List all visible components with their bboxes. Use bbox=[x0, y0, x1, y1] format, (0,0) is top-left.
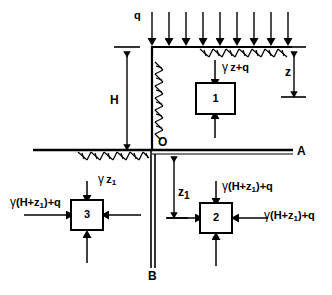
point-B-label: B bbox=[148, 270, 157, 282]
element2-top-stress-label: γ(H+z1)+q bbox=[222, 180, 273, 192]
surcharge-label: q bbox=[134, 10, 141, 21]
element-2-label: 2 bbox=[200, 212, 232, 223]
wall-height-H-label: H bbox=[110, 94, 119, 106]
depth-z1-label: z1 bbox=[178, 186, 190, 201]
element3-top-stress-label: γ z1 bbox=[98, 173, 116, 185]
vertical-stress-element1-label: γ z+q bbox=[222, 61, 249, 73]
element3-left-stress-label: γ(H+z1)+q bbox=[10, 196, 61, 208]
point-O-label: O bbox=[158, 136, 167, 148]
top-surface-hatching bbox=[200, 49, 287, 57]
lower-ground-surface bbox=[33, 150, 293, 154]
lower-surface-hatching bbox=[78, 152, 149, 160]
surcharge-arrow-group bbox=[152, 12, 288, 39]
element2-right-stress-label: γ(H+z1)+q bbox=[264, 209, 315, 221]
lower-wall-line-OB bbox=[151, 150, 155, 268]
point-A-label: A bbox=[297, 145, 306, 157]
depth-z-label: z bbox=[285, 66, 291, 78]
wall-face-hatching bbox=[155, 62, 163, 140]
element-1-label: 1 bbox=[196, 93, 235, 104]
element-3-label: 3 bbox=[71, 209, 103, 220]
earth-pressure-diagram: q γ z+q z H z1 O A B γ z1 γ(H+z1)+q γ(H+… bbox=[0, 0, 332, 295]
